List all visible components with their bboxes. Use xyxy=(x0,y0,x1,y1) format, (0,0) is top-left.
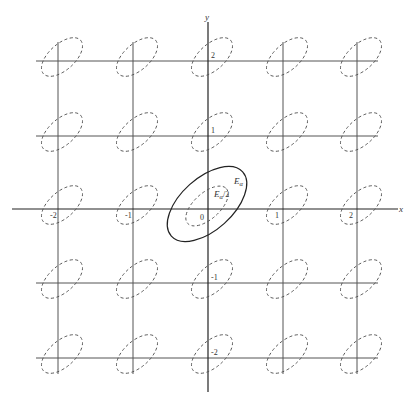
lattice-ellipses xyxy=(35,31,389,381)
lattice-point-set xyxy=(260,31,315,84)
x-lattice-label: -2 xyxy=(50,211,57,220)
lattice-point-set xyxy=(334,253,389,306)
lattice-point-set xyxy=(334,31,389,84)
inner-set-label: Eα/2 xyxy=(213,189,229,200)
x-lattice-label: 2 xyxy=(349,211,353,220)
x-lattice-label: -1 xyxy=(125,211,132,220)
lattice-point-set xyxy=(110,179,165,232)
center-confidence-sets: 0 Eα Eα/2 xyxy=(154,153,260,256)
grid-lines xyxy=(36,42,378,374)
y-axis-label: y xyxy=(204,12,209,22)
lattice-point-set xyxy=(260,179,315,232)
x-lattice-label: 1 xyxy=(275,211,279,220)
lattice-point-set xyxy=(260,106,315,159)
y-lattice-label: -1 xyxy=(211,273,218,282)
lattice-point-set xyxy=(35,31,90,84)
lattice-point-set xyxy=(35,179,90,232)
lattice-point-set xyxy=(110,253,165,306)
lattice-point-set xyxy=(334,179,389,232)
lattice-point-set xyxy=(110,31,165,84)
outer-set-E-alpha xyxy=(154,153,260,256)
origin-label: 0 xyxy=(200,213,204,222)
lattice-point-set xyxy=(35,328,90,381)
lattice-point-set xyxy=(110,106,165,159)
x-axis-label: x xyxy=(398,204,403,214)
lattice-ellipse-diagram: x y -2-11221-1-2 0 Eα Eα/2 xyxy=(0,0,414,403)
lattice-labels: -2-11221-1-2 xyxy=(50,51,353,357)
y-lattice-label: -2 xyxy=(211,348,218,357)
lattice-point-set xyxy=(334,328,389,381)
lattice-point-set xyxy=(260,253,315,306)
lattice-point-set xyxy=(334,106,389,159)
lattice-point-set xyxy=(35,253,90,306)
y-lattice-label: 2 xyxy=(211,51,215,60)
lattice-point-set xyxy=(35,106,90,159)
lattice-point-set xyxy=(110,328,165,381)
lattice-point-set xyxy=(260,328,315,381)
outer-set-label: Eα xyxy=(233,176,244,187)
y-lattice-label: 1 xyxy=(211,126,215,135)
